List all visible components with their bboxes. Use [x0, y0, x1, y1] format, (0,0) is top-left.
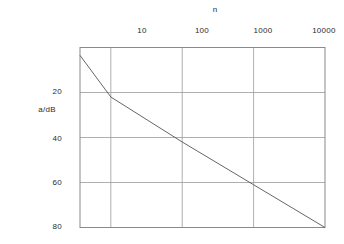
chart-figure: n a/dB 10 100 1000 10000 20 40 60 80: [0, 0, 344, 244]
grid-lines: [80, 48, 325, 228]
data-line: [80, 55, 325, 227]
data-line-group: [80, 55, 325, 227]
plot-area: [0, 0, 344, 244]
